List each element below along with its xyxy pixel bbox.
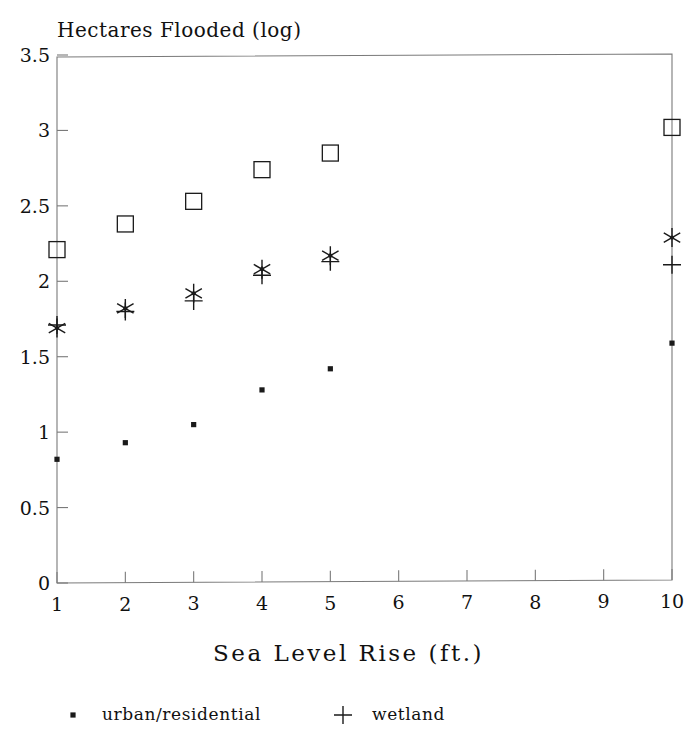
legend-entry: urban/residential [60,704,261,724]
marker-asterisk-core [55,326,59,330]
marker-square [186,193,202,209]
plot-frame [57,54,672,583]
series-dot [54,341,674,462]
marker-square [322,145,338,161]
marker-asterisk-core [260,267,264,271]
legend-label: urban/residential [102,704,261,724]
marker-asterisk-core [192,291,196,295]
x-axis-label: Sea Level Rise (ft.) [0,640,697,666]
marker-square [254,162,270,178]
series-square [49,119,680,257]
marker-dot [54,457,59,462]
marker-asterisk-core [123,306,127,310]
legend-entry: wetland [330,704,445,724]
marker-plus [334,706,352,724]
legend-marker-dot-icon [60,704,86,724]
legend-label: wetland [372,704,445,724]
chart-figure: Hectares Flooded (log) 00.511.522.533.5 … [0,0,697,732]
plot-area [0,0,697,732]
series-asterisk [49,228,680,338]
marker-asterisk-core [328,254,332,258]
marker-dot [669,341,674,346]
series-plus [48,253,681,334]
marker-asterisk-core [670,235,674,239]
marker-dot [70,712,75,717]
marker-plus [663,256,681,274]
marker-dot [328,366,333,371]
marker-dot [259,387,264,392]
chart-legend: urban/residentialwetland [0,698,697,732]
legend-marker-plus-icon [330,704,356,724]
marker-dot [191,422,196,427]
marker-square [117,216,133,232]
marker-dot [123,440,128,445]
